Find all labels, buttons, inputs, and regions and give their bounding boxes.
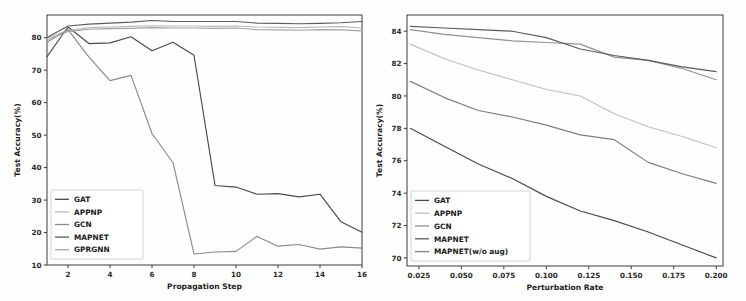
- line-chart-perturbation-rate: 0.0250.0500.0750.1000.1250.1500.1750.200…: [373, 0, 746, 301]
- legend-label-gat: GAT: [74, 195, 90, 204]
- y-axis-title: Test Accuracy(%): [13, 103, 22, 176]
- x-tick-label: 14: [315, 270, 325, 279]
- series-line-gcn: [410, 30, 716, 80]
- x-tick-label: 0.150: [620, 271, 643, 280]
- x-tick-label: 0.050: [450, 271, 473, 280]
- series-line-appnp: [410, 44, 716, 148]
- y-tick-label: 76: [391, 156, 401, 165]
- figure-container: 2468101214161020304050607080Propagation …: [0, 0, 746, 301]
- y-tick-label: 10: [31, 261, 41, 270]
- x-tick-label: 16: [357, 270, 367, 279]
- x-tick-label: 12: [273, 270, 283, 279]
- x-axis-title: Perturbation Rate: [526, 283, 603, 292]
- x-tick-label: 10: [231, 270, 241, 279]
- legend-label-gprgnn: GPRGNN: [74, 245, 110, 254]
- y-tick-label: 60: [31, 98, 41, 107]
- series-line-appnp: [47, 26, 362, 38]
- legend-label-gcn: GCN: [434, 222, 452, 231]
- y-tick-label: 40: [31, 163, 41, 172]
- y-axis-title: Test Accuracy(%): [375, 104, 384, 177]
- y-tick-label: 30: [31, 196, 41, 205]
- x-axis-title: Propagation Step: [167, 282, 242, 291]
- x-tick-label: 4: [107, 270, 112, 279]
- series-line-mapnet-w-o-aug: [410, 81, 716, 183]
- y-tick-label: 80: [31, 33, 41, 42]
- y-tick-label: 72: [391, 221, 401, 230]
- x-tick-label: 2: [65, 270, 70, 279]
- x-tick-label: 0.200: [705, 271, 728, 280]
- x-tick-label: 0.100: [535, 271, 558, 280]
- chart-panel-left: 2468101214161020304050607080Propagation …: [0, 0, 373, 301]
- y-tick-label: 74: [391, 189, 401, 198]
- y-tick-label: 50: [31, 131, 41, 140]
- x-tick-label: 0.175: [662, 271, 685, 280]
- x-tick-label: 0.025: [408, 271, 431, 280]
- y-tick-label: 82: [391, 59, 401, 68]
- chart-panel-right: 0.0250.0500.0750.1000.1250.1500.1750.200…: [373, 0, 746, 301]
- y-tick-label: 70: [31, 66, 41, 75]
- legend-label-appnp: APPNP: [434, 209, 463, 218]
- series-line-gprgnn: [47, 28, 362, 40]
- y-tick-label: 78: [391, 124, 401, 133]
- legend-label-mapnet-w-o-aug: MAPNET(w/o aug): [434, 247, 508, 256]
- y-tick-label: 70: [391, 254, 401, 263]
- legend-label-gcn: GCN: [74, 220, 92, 229]
- y-tick-label: 80: [391, 92, 401, 101]
- legend-label-mapnet: MAPNET: [434, 235, 469, 244]
- x-tick-label: 6: [149, 270, 154, 279]
- line-chart-propagation-step: 2468101214161020304050607080Propagation …: [0, 0, 373, 301]
- series-line-mapnet: [410, 26, 716, 71]
- x-tick-label: 0.125: [577, 271, 600, 280]
- x-tick-label: 8: [191, 270, 196, 279]
- y-tick-label: 20: [31, 228, 41, 237]
- x-tick-label: 0.075: [492, 271, 515, 280]
- legend-label-mapnet: MAPNET: [74, 233, 109, 242]
- legend-label-gat: GAT: [434, 196, 450, 205]
- legend-label-appnp: APPNP: [74, 208, 103, 217]
- y-tick-label: 84: [391, 27, 401, 36]
